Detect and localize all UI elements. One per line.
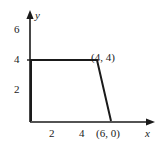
coordinate-plane-figure: 6 4 2 2 4 x y (4, 4) (6, 0) bbox=[0, 0, 163, 147]
y-axis-tick-label-4: 4 bbox=[14, 54, 20, 65]
y-axis-tick-label-6: 6 bbox=[14, 24, 20, 35]
vertex-label-4-4: (4, 4) bbox=[91, 52, 115, 63]
vertex-label-6-0: (6, 0) bbox=[96, 128, 120, 139]
x-axis-tick-label-2: 2 bbox=[49, 128, 55, 139]
y-axis-name: y bbox=[35, 10, 40, 21]
y-axis-arrowhead bbox=[26, 10, 33, 19]
x-axis-tick-label-4: 4 bbox=[79, 128, 85, 139]
x-axis-arrowhead bbox=[146, 118, 155, 125]
plot-canvas bbox=[0, 0, 163, 147]
x-axis-name: x bbox=[145, 128, 150, 139]
trapezoid-boundary bbox=[31, 60, 111, 121]
y-axis-tick-label-2: 2 bbox=[14, 84, 20, 95]
